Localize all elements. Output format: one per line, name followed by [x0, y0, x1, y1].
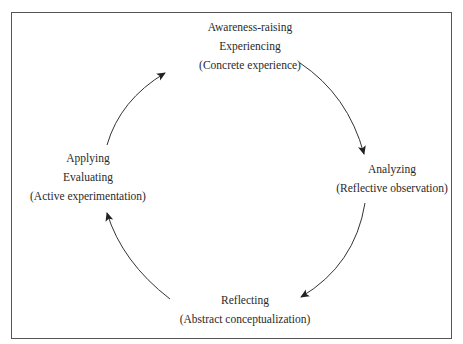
node-abstract-conceptualization: Reflecting (Abstract conceptualization) — [160, 291, 330, 329]
node-left-line-1: Applying — [13, 149, 163, 168]
arrow-right-to-bottom — [301, 203, 365, 297]
node-right-line-1: Analyzing — [327, 160, 457, 179]
node-top-line-3: (Concrete experience) — [185, 56, 315, 75]
node-bottom-line-1: Reflecting — [160, 291, 330, 310]
node-left-line-3: (Active experimentation) — [13, 187, 163, 206]
node-top-line-1: Awareness-raising — [185, 18, 315, 37]
arrow-left-to-top — [107, 73, 165, 145]
node-bottom-line-2: (Abstract conceptualization) — [160, 310, 330, 329]
node-top-line-2: Experiencing — [185, 37, 315, 56]
node-reflective-observation: Analyzing (Reflective observation) — [327, 160, 457, 198]
node-left-line-2: Evaluating — [13, 168, 163, 187]
arrow-bottom-to-left — [107, 213, 170, 299]
node-right-line-2: (Reflective observation) — [327, 179, 457, 198]
arrow-top-to-right — [300, 63, 364, 154]
node-concrete-experience: Awareness-raising Experiencing (Concrete… — [185, 18, 315, 75]
node-active-experimentation: Applying Evaluating (Active experimentat… — [13, 149, 163, 206]
